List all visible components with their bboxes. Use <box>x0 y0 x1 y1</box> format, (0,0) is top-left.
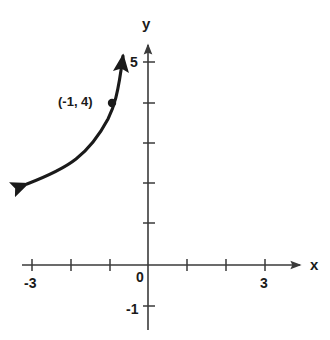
x-tick-label-3: 3 <box>260 276 268 290</box>
y-tick-label-minus-1: -1 <box>126 302 138 316</box>
y-axis-label: y <box>142 16 150 31</box>
x-axis-label: x <box>310 257 318 272</box>
data-point-marker <box>108 99 116 107</box>
plot-canvas <box>0 0 330 340</box>
x-tick-label-minus-3: -3 <box>24 276 36 290</box>
y-tick-label-5: 5 <box>130 55 138 69</box>
origin-label: 0 <box>136 270 144 284</box>
curve-path <box>27 56 123 184</box>
y-axis-ticks <box>143 62 155 306</box>
point-annotation-label: (-1, 4) <box>58 95 93 108</box>
graph-figure: y x 5 0 -1 -3 3 (-1, 4) <box>0 0 330 340</box>
